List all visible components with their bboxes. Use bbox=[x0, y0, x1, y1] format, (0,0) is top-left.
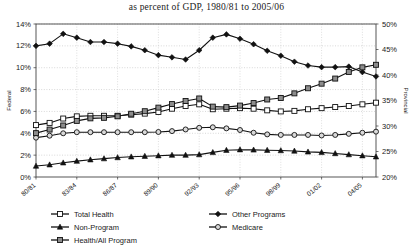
data-point bbox=[224, 32, 230, 38]
data-point bbox=[61, 116, 66, 121]
y2-axis-tick-label: 30% bbox=[382, 122, 397, 131]
y-axis-tick-label: 8% bbox=[20, 85, 31, 94]
data-point bbox=[373, 74, 379, 80]
data-point bbox=[374, 62, 379, 67]
data-point bbox=[74, 130, 79, 135]
legend-label: Other Programs bbox=[232, 210, 286, 219]
y-axis-tick-label: 4% bbox=[20, 129, 31, 138]
data-point bbox=[238, 128, 243, 133]
legend-item-health-all-program[interactable]: Health/All Program bbox=[51, 236, 137, 245]
data-point bbox=[333, 132, 338, 137]
data-point bbox=[61, 131, 66, 136]
data-point bbox=[47, 120, 52, 125]
series-health-all-program bbox=[34, 62, 379, 135]
data-point bbox=[88, 130, 93, 135]
data-point bbox=[224, 126, 229, 131]
data-point bbox=[332, 64, 338, 70]
legend-item-medicare[interactable]: Medicare bbox=[209, 223, 263, 232]
y2-axis-tick-label: 20% bbox=[382, 173, 397, 182]
data-point bbox=[360, 130, 365, 135]
data-point bbox=[251, 41, 257, 47]
y-axis-tick-label: 12% bbox=[16, 41, 31, 50]
data-point bbox=[129, 111, 134, 116]
data-point bbox=[251, 130, 256, 135]
data-point bbox=[47, 127, 52, 132]
data-point bbox=[142, 130, 147, 135]
legend-item-other-programs[interactable]: Other Programs bbox=[209, 210, 286, 219]
y-axis-tick-label: 0% bbox=[20, 173, 31, 182]
data-point bbox=[346, 69, 351, 74]
data-point bbox=[156, 129, 161, 134]
series-line bbox=[36, 34, 376, 77]
data-point bbox=[115, 114, 120, 119]
x-axis-tick-label: 95/96 bbox=[224, 181, 241, 197]
data-point bbox=[88, 116, 93, 121]
data-point bbox=[360, 65, 365, 70]
chart-title: as percent of GDP, 1980/81 to 2005/06 bbox=[0, 0, 413, 14]
data-point bbox=[292, 59, 298, 65]
data-point bbox=[278, 53, 284, 59]
data-point bbox=[251, 106, 256, 111]
series-line bbox=[36, 65, 376, 133]
data-point bbox=[88, 39, 94, 45]
y-axis-tick-label: 14% bbox=[16, 20, 31, 29]
x-axis-tick-label: 86/87 bbox=[101, 181, 118, 197]
chart-plot-area: 0%2%4%6%8%10%12%14%20%25%30%35%40%45%50%… bbox=[0, 0, 413, 247]
y-axis-tick-label: 10% bbox=[16, 63, 31, 72]
data-point bbox=[319, 81, 324, 86]
series-total-health bbox=[34, 100, 379, 127]
data-point bbox=[142, 109, 147, 114]
y2-axis-title: Provincial bbox=[403, 87, 409, 113]
data-point bbox=[170, 129, 175, 134]
data-point bbox=[101, 39, 107, 45]
data-point bbox=[333, 105, 338, 110]
data-point bbox=[197, 96, 202, 101]
y2-axis-tick-label: 50% bbox=[382, 20, 397, 29]
data-point bbox=[115, 130, 120, 135]
x-axis-tick-label: 04/05 bbox=[346, 181, 363, 197]
data-point bbox=[292, 91, 297, 96]
data-point bbox=[142, 47, 148, 53]
data-point bbox=[34, 131, 39, 136]
data-point bbox=[129, 130, 134, 135]
data-point bbox=[197, 102, 202, 107]
data-point bbox=[278, 132, 283, 137]
y-axis-tick-label: 6% bbox=[20, 107, 31, 116]
data-point bbox=[264, 48, 270, 54]
series-line bbox=[36, 150, 376, 166]
data-point bbox=[74, 35, 80, 41]
data-point bbox=[47, 133, 52, 138]
series-line bbox=[36, 103, 376, 125]
data-point bbox=[292, 108, 297, 113]
legend-marker-icon bbox=[58, 238, 63, 243]
data-point bbox=[210, 104, 215, 109]
x-axis-tick-label: 98/99 bbox=[264, 181, 281, 197]
data-point bbox=[306, 86, 311, 91]
data-point bbox=[183, 103, 188, 108]
data-point bbox=[374, 100, 379, 105]
data-point bbox=[61, 123, 66, 128]
data-point bbox=[319, 106, 324, 111]
data-point bbox=[183, 99, 188, 104]
legend-label: Total Health bbox=[74, 210, 114, 219]
data-point bbox=[197, 125, 202, 130]
x-axis-tick-label: 01/02 bbox=[305, 181, 322, 197]
data-point bbox=[237, 36, 243, 42]
series-line bbox=[36, 127, 376, 137]
y2-axis-tick-label: 25% bbox=[382, 147, 397, 156]
data-point bbox=[251, 101, 256, 106]
legend-label: Medicare bbox=[232, 223, 263, 232]
legend-item-total-health[interactable]: Total Health bbox=[51, 210, 114, 219]
data-point bbox=[319, 133, 324, 138]
data-point bbox=[128, 44, 134, 50]
chart-container: as percent of GDP, 1980/81 to 2005/06 0%… bbox=[0, 0, 413, 247]
data-point bbox=[102, 115, 107, 120]
x-axis-tick-label: 80/81 bbox=[20, 181, 37, 197]
legend-item-non-program[interactable]: Non-Program bbox=[51, 223, 119, 232]
data-point bbox=[346, 64, 352, 70]
legend-label: Health/All Program bbox=[74, 236, 137, 245]
x-axis-tick-label: 83/84 bbox=[60, 181, 77, 197]
data-point bbox=[265, 97, 270, 102]
data-point bbox=[34, 123, 39, 128]
data-point bbox=[360, 102, 365, 107]
